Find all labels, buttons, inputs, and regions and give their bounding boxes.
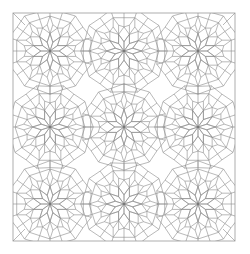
rosette-center [197, 50, 199, 52]
rosette-center [49, 126, 51, 128]
rosette-center [49, 50, 51, 52]
penrose-tiling [0, 0, 250, 254]
rosette-center [197, 203, 199, 205]
rhombus-tiles [7, 8, 242, 248]
rosette-center [123, 50, 125, 52]
rosette-center [197, 126, 199, 128]
rosette-center [123, 126, 125, 128]
rosette-center [123, 203, 125, 205]
rosette-center [49, 203, 51, 205]
